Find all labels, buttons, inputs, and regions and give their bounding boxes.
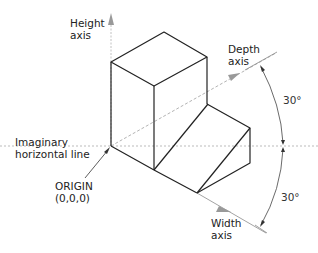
angle-label-bottom: 30° (281, 191, 300, 203)
angle-arrow-top-icon (260, 65, 265, 72)
height-axis-label: Height axis (70, 17, 105, 41)
width-angle-extension (255, 225, 267, 233)
origin-label: ORIGIN (0,0,0) (55, 180, 93, 204)
depth-axis-label: Depth axis (228, 43, 260, 67)
depth-axis-arrow-icon (228, 73, 240, 81)
angle-arrow-mid-bottom-icon (281, 147, 285, 152)
width-axis-label: Width axis (211, 217, 242, 241)
width-axis-arrow-icon (216, 206, 231, 212)
angle-label-top: 30° (283, 94, 302, 106)
origin-pointer-arrow-icon (104, 147, 110, 154)
angle-arrow-bottom-icon (260, 220, 265, 227)
angle-arc-bottom (261, 149, 283, 225)
isometric-diagram (0, 0, 318, 253)
angle-arrow-mid-top-icon (281, 140, 285, 145)
horizontal-line-label: Imaginary horizontal line (15, 136, 90, 160)
angle-arc-top (261, 67, 283, 143)
height-axis-arrow-icon (108, 13, 114, 25)
